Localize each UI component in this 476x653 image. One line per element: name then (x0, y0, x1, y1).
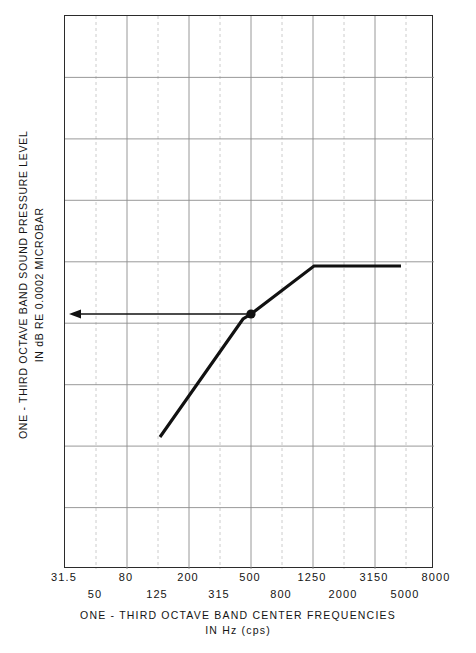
x-axis-ticks-minor: 50 125 315 800 2000 5000 (0, 588, 476, 604)
y-axis-label-line-2: IN dB RE 0.0002 MICROBAR (31, 131, 47, 440)
data-line-series-1 (160, 266, 401, 437)
x-axis-ticks-major: 31.5 80 200 500 1250 3150 8000 (0, 571, 476, 587)
x-axis-label: ONE - THIRD OCTAVE BAND CENTER FREQUENCI… (0, 608, 476, 638)
xtick-major-6: 8000 (422, 571, 451, 583)
xtick-major-5: 3150 (360, 571, 389, 583)
xtick-minor-0: 50 (88, 588, 102, 600)
plot-area (64, 15, 433, 568)
xtick-minor-3: 800 (270, 588, 292, 600)
xtick-major-3: 500 (239, 571, 261, 583)
y-axis-label-line-1: ONE - THIRD OCTAVE BAND SOUND PRESSURE L… (15, 131, 31, 440)
x-axis-label-line-1: ONE - THIRD OCTAVE BAND CENTER FREQUENCI… (0, 608, 476, 623)
y-axis-label-text: ONE - THIRD OCTAVE BAND SOUND PRESSURE L… (15, 131, 47, 440)
xtick-major-0: 31.5 (51, 571, 77, 583)
figure-container: ONE - THIRD OCTAVE BAND SOUND PRESSURE L… (0, 0, 476, 653)
xtick-minor-1: 125 (146, 588, 168, 600)
xtick-major-1: 80 (119, 571, 133, 583)
xtick-minor-4: 2000 (329, 588, 358, 600)
xtick-major-4: 1250 (298, 571, 327, 583)
y-axis-label: ONE - THIRD OCTAVE BAND SOUND PRESSURE L… (0, 0, 62, 570)
data-overlay (65, 16, 434, 569)
x-axis-label-line-2: IN Hz (cps) (0, 623, 476, 638)
xtick-major-2: 200 (177, 571, 199, 583)
xtick-minor-5: 5000 (391, 588, 420, 600)
highlighted-data-point (246, 309, 255, 318)
xtick-minor-2: 315 (208, 588, 230, 600)
level-reference-arrow (69, 310, 251, 319)
